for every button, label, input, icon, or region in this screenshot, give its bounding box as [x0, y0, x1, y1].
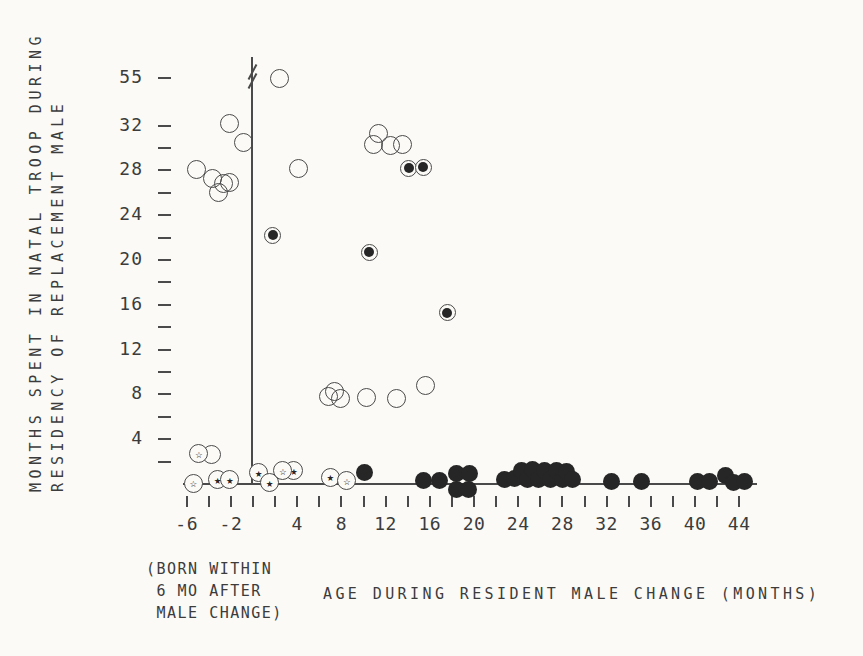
- x-tick: [340, 496, 342, 507]
- y-tick-label: 4: [95, 427, 143, 448]
- x-axis-note-line1: (BORN WITHIN: [146, 560, 272, 578]
- y-tick: [158, 416, 171, 418]
- x-axis-note-line2: 6 MO AFTER: [146, 582, 262, 600]
- y-tick: [158, 169, 171, 171]
- data-point-filled-circle: [431, 472, 448, 489]
- data-point-open-circle: [270, 69, 289, 88]
- data-point-filled-circle: [603, 473, 620, 490]
- data-point-filled-circle: [356, 464, 373, 481]
- x-tick: [274, 496, 276, 507]
- x-tick: [628, 496, 630, 507]
- y-tick: [158, 461, 171, 463]
- y-axis-title-line1: MONTHS SPENT IN NATAL TROOP DURING: [27, 32, 45, 492]
- data-point-circle-open-star: ☆: [184, 474, 203, 493]
- x-tick: [606, 496, 608, 507]
- x-tick: [429, 496, 431, 507]
- data-point-filled-circle: [701, 473, 718, 490]
- scatter-figure: MONTHS SPENT IN NATAL TROOP DURING RESID…: [0, 0, 863, 656]
- data-point-filled-circle: [460, 481, 477, 498]
- data-point-circled-dot: [439, 304, 456, 321]
- x-tick-label: -2: [207, 513, 255, 534]
- x-tick-label: 28: [538, 513, 586, 534]
- data-point-open-circle: [387, 389, 406, 408]
- x-axis-note-line3: MALE CHANGE): [146, 604, 283, 622]
- data-point-open-circle: [393, 135, 412, 154]
- y-tick-label: 24: [95, 203, 143, 224]
- x-tick-label: 32: [583, 513, 631, 534]
- y-tick: [158, 147, 171, 149]
- y-tick: [158, 393, 171, 395]
- x-tick-label: 36: [627, 513, 675, 534]
- x-tick: [318, 496, 320, 507]
- y-tick: [158, 214, 171, 216]
- y-tick-label: 28: [95, 158, 143, 179]
- x-tick: [738, 496, 740, 507]
- data-point-circle-open-star: ☆: [337, 471, 356, 490]
- y-tick: [158, 371, 171, 373]
- x-tick-label: 8: [317, 513, 365, 534]
- y-tick: [158, 349, 171, 351]
- data-point-filled-circle: [633, 473, 650, 490]
- data-point-open-circle: [331, 389, 350, 408]
- x-tick-label: 16: [406, 513, 454, 534]
- x-tick: [650, 496, 652, 507]
- x-axis-note: (BORN WITHIN 6 MO AFTER MALE CHANGE): [146, 558, 283, 624]
- x-axis-title: AGE DURING RESIDENT MALE CHANGE (MONTHS): [323, 585, 820, 603]
- x-tick: [584, 496, 586, 507]
- x-tick: [208, 496, 210, 507]
- data-point-open-circle: [416, 376, 435, 395]
- x-tick: [672, 496, 674, 507]
- data-point-open-circle: [289, 159, 308, 178]
- data-point-circled-dot: [361, 244, 378, 261]
- x-tick: [451, 496, 453, 507]
- y-tick-label: 12: [95, 338, 143, 359]
- data-point-circled-dot: [264, 227, 281, 244]
- x-tick: [407, 496, 409, 507]
- y-tick: [158, 438, 171, 440]
- data-point-filled-circle: [736, 473, 753, 490]
- y-axis-title-line2: RESIDENCY OF REPLACEMENT MALE: [49, 100, 67, 492]
- y-tick-label: 20: [95, 248, 143, 269]
- y-axis-line: [251, 57, 253, 484]
- y-tick-label: 16: [95, 293, 143, 314]
- x-tick: [186, 496, 188, 507]
- data-point-open-circle: [220, 114, 239, 133]
- x-tick-label: 44: [715, 513, 763, 534]
- y-tick: [158, 304, 171, 306]
- y-tick: [158, 259, 171, 261]
- y-tick: [158, 326, 171, 328]
- x-tick-label: 40: [671, 513, 719, 534]
- y-tick-label: 32: [95, 114, 143, 135]
- y-tick: [158, 192, 171, 194]
- x-tick-label: -6: [163, 513, 211, 534]
- x-tick: [473, 496, 475, 507]
- x-tick: [539, 496, 541, 507]
- x-tick-label: 24: [494, 513, 542, 534]
- x-tick: [252, 496, 254, 507]
- data-point-filled-circle: [415, 472, 432, 489]
- data-point-circle-filled-star: ★: [220, 470, 239, 489]
- x-tick: [495, 496, 497, 507]
- x-tick-label: 12: [362, 513, 410, 534]
- x-tick: [694, 496, 696, 507]
- x-tick: [230, 496, 232, 507]
- data-point-open-circle: [234, 133, 253, 152]
- x-tick: [385, 496, 387, 507]
- data-point-circled-dot: [415, 159, 432, 176]
- y-tick: [158, 125, 171, 127]
- x-tick-label: 4: [273, 513, 321, 534]
- x-tick-label: 20: [450, 513, 498, 534]
- y-tick-label: 55: [95, 66, 143, 87]
- data-point-filled-circle: [461, 465, 478, 482]
- data-point-open-circle: [220, 173, 239, 192]
- y-tick: [158, 237, 171, 239]
- y-tick: [158, 77, 171, 79]
- x-tick: [296, 496, 298, 507]
- x-tick: [561, 496, 563, 507]
- y-tick-label: 8: [95, 382, 143, 403]
- x-tick: [517, 496, 519, 507]
- x-tick: [363, 496, 365, 507]
- y-tick: [158, 281, 171, 283]
- data-point-open-circle: [357, 388, 376, 407]
- x-tick: [716, 496, 718, 507]
